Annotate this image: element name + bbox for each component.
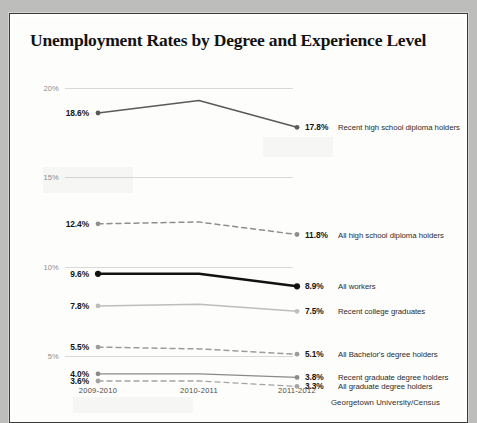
source-attribution: Georgetown University/Census (331, 398, 440, 407)
chart-sheet: Unemployment Rates by Degree and Experie… (13, 17, 464, 422)
series-end-value: 8.9% (305, 281, 339, 291)
data-point-marker (295, 375, 300, 380)
chart-plot-area: 20%15%10%5% 18.6%17.8%Recent high school… (13, 17, 466, 421)
series-line (98, 101, 297, 128)
series-start-value: 18.6% (49, 108, 89, 118)
series-end-value: 17.8% (305, 122, 339, 132)
document-frame: Unemployment Rates by Degree and Experie… (9, 13, 468, 423)
data-point-marker (96, 345, 101, 350)
series-end-value: 5.1% (305, 349, 339, 359)
series-legend-label: All Bachelor's degree holders (338, 350, 438, 359)
data-point-marker (295, 352, 300, 357)
x-axis-tick: 2010-2011 (164, 386, 234, 395)
data-point-marker (295, 309, 300, 314)
screenshot-canvas: Unemployment Rates by Degree and Experie… (0, 0, 477, 423)
series-line (98, 304, 297, 311)
series-line (98, 274, 297, 287)
series-start-value: 7.8% (49, 301, 89, 311)
series-line (98, 347, 297, 354)
series-line (98, 222, 297, 235)
data-point-marker (96, 304, 101, 309)
series-end-value: 7.5% (305, 306, 339, 316)
series-legend-label: Recent college graduates (338, 307, 425, 316)
series-start-value: 9.6% (49, 269, 89, 279)
series-legend-label: Recent graduate degree holders (338, 373, 448, 382)
series-legend-label: All workers (338, 282, 376, 291)
data-point-marker (96, 371, 101, 376)
series-start-value: 5.5% (49, 342, 89, 352)
data-point-marker (295, 125, 300, 130)
data-point-marker (95, 271, 101, 277)
data-point-marker (96, 379, 101, 384)
data-point-marker (294, 283, 300, 289)
series-legend-label: All graduate degree holders (338, 382, 432, 391)
series-legend-label: Recent high school diploma holders (338, 123, 460, 132)
series-start-value: 3.6% (49, 376, 89, 386)
series-legend-label: All high school diploma holders (338, 231, 444, 240)
series-end-value: 11.8% (305, 230, 339, 240)
data-point-marker (96, 221, 101, 226)
x-axis-tick: 2011-2012 (262, 386, 332, 395)
data-point-marker (295, 232, 300, 237)
x-axis-tick: 2009-2010 (63, 386, 133, 395)
series-line (98, 374, 297, 378)
data-point-marker (96, 111, 101, 116)
series-start-value: 12.4% (49, 219, 89, 229)
